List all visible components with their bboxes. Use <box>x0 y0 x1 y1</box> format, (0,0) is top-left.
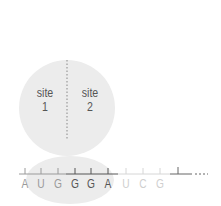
site-2-label: site 2 <box>78 86 102 114</box>
base-6: A <box>103 177 113 191</box>
base-1: A <box>20 177 30 191</box>
base-5: G <box>86 177 96 191</box>
base-2: U <box>36 177 46 191</box>
base-8: C <box>138 177 148 191</box>
ribosome-translation-diagram: site 1 site 2 A U G G G A U C G <box>0 0 221 206</box>
base-3: G <box>53 177 63 191</box>
base-7: U <box>121 177 131 191</box>
base-4: G <box>70 177 80 191</box>
base-9: G <box>155 177 165 191</box>
site-1-label: site 1 <box>33 86 57 114</box>
